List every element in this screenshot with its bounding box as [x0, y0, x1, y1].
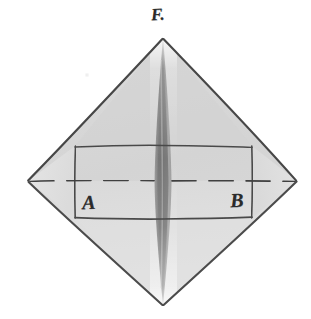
stray-fleck [86, 74, 88, 76]
vertex-label-a: A [82, 192, 96, 212]
vertex-label-f: F. [151, 6, 165, 24]
figure-root: F. A B [0, 0, 311, 319]
diagram-canvas [0, 0, 311, 319]
inner-rect-left-edge [75, 146, 76, 218]
vertex-label-b: B [229, 190, 243, 211]
central-spindle-group [150, 36, 177, 308]
inner-rect-right-edge [252, 146, 253, 218]
